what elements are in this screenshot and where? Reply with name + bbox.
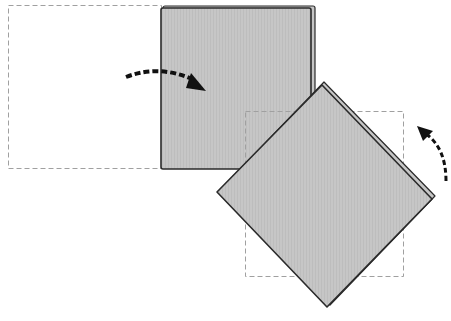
diagram-canvas (0, 0, 451, 321)
arrow-rotate-ccw-icon (417, 126, 446, 181)
ghost-outline-left (9, 6, 162, 169)
origami-step-diagram (0, 0, 451, 321)
